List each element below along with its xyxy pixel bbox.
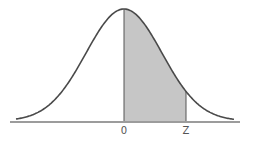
normal-curve-diagram: 0 Z [0, 0, 259, 142]
shaded-area [124, 9, 186, 121]
label-z: Z [183, 125, 190, 136]
label-zero: 0 [121, 125, 127, 136]
